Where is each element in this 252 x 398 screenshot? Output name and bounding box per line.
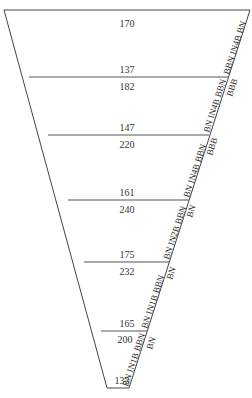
edge-label-5: BN IN1B BBN: [139, 273, 166, 329]
outer-label-5: BN: [144, 335, 158, 350]
edge-labels-inner: BBN IN4B BN BN IN4B BBN BN IN4B BBN BN I…: [120, 19, 248, 387]
section-6-top: 200: [118, 334, 133, 345]
tapered-section-diagram: 170 137 182 147 220 161 240 175 232 165 …: [0, 0, 252, 398]
edge-label-2: BN IN4B BBN: [201, 77, 228, 133]
edge-label-3: BN IN4B BBN: [181, 142, 208, 198]
section-5-bottom: 165: [120, 318, 135, 329]
section-4-bottom: 175: [120, 249, 135, 260]
edge-label-1: BBN IN4B BN: [221, 19, 248, 75]
section-1-bottom: 137: [120, 64, 135, 75]
section-2-bottom: 147: [120, 122, 135, 133]
edge-label-4: BN IN2B BBN: [161, 204, 188, 260]
section-5-top: 232: [120, 266, 135, 277]
outer-label-4: BN: [164, 265, 178, 280]
section-2-top: 182: [120, 81, 135, 92]
section-4-top: 240: [120, 204, 135, 215]
section-3-top: 220: [120, 139, 135, 150]
section-1-top: 170: [120, 18, 135, 29]
edge-labels-outer: BBB BBB BN BN BN: [144, 77, 239, 350]
outer-label-2: BBB: [204, 136, 219, 156]
outer-label-3: BN: [184, 203, 198, 218]
section-3-bottom: 161: [120, 187, 135, 198]
